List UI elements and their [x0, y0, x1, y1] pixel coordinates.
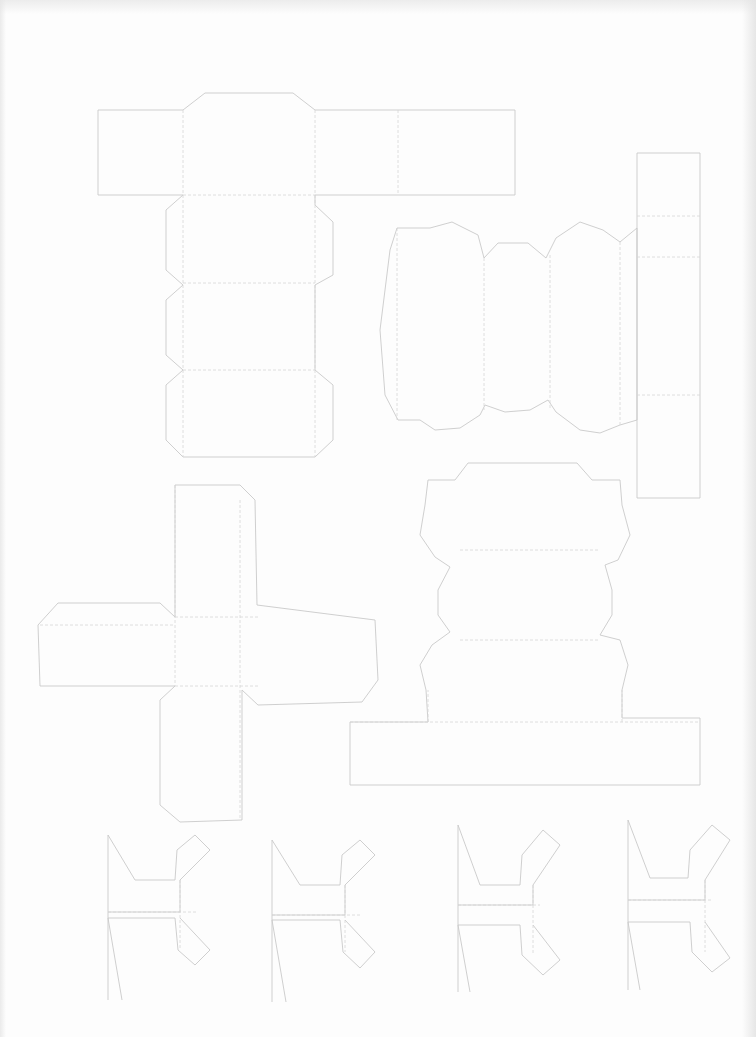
cut-line — [458, 825, 560, 905]
h-piece-4 — [628, 820, 730, 990]
h-piece-1 — [108, 835, 210, 1000]
h-piece-2 — [272, 840, 375, 1002]
cut-line — [350, 463, 700, 785]
cut-line — [98, 93, 515, 457]
cut-line — [458, 925, 470, 992]
cut-line — [108, 918, 122, 1000]
cut-line — [108, 918, 210, 965]
scalloped-pedestal-net — [350, 463, 700, 785]
cut-line — [272, 920, 286, 1002]
tall-right-strip — [637, 153, 700, 498]
cut-line — [458, 925, 560, 975]
cross-box-net — [38, 485, 378, 822]
h-piece-3 — [458, 825, 560, 992]
top-left-box-net — [98, 93, 515, 457]
cut-line — [628, 922, 640, 990]
cut-line — [272, 920, 375, 968]
cut-line — [637, 153, 700, 498]
cut-line — [38, 485, 378, 822]
paper-sheet — [0, 0, 756, 1037]
cut-line — [628, 922, 730, 972]
papercraft-template — [0, 0, 756, 1037]
scalloped-cylinder-net — [380, 222, 637, 433]
cut-line — [108, 835, 210, 912]
cut-line — [628, 820, 730, 900]
cut-line — [272, 840, 375, 915]
cut-line — [380, 222, 637, 433]
